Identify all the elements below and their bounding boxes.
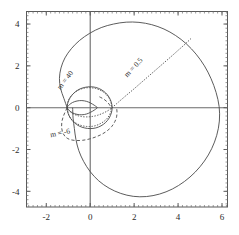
label-m-05: m = 0.5 (122, 56, 145, 79)
polar-curve-figure: -20246 420-2-4 m = 40m = 0.5m = -6 (0, 0, 239, 235)
x-tick-label: -2 (43, 212, 51, 222)
curve-series-group (59, 22, 219, 197)
x-tick-labels: -20246 (43, 212, 225, 222)
y-tick-label: 4 (15, 19, 20, 29)
curve-outer-solid-curve (59, 22, 219, 197)
axes-group (27, 12, 228, 208)
x-tick-label: 4 (176, 212, 181, 222)
y-tick-label: -4 (12, 187, 20, 197)
y-tick-labels: 420-2-4 (12, 19, 20, 196)
ticks-group (27, 12, 228, 208)
y-tick-label: 2 (15, 61, 20, 71)
x-tick-label: 2 (132, 212, 137, 222)
y-tick-label: 0 (15, 103, 20, 113)
plot-frame-border (27, 12, 228, 208)
y-tick-label: -2 (12, 145, 20, 155)
plot-canvas: -20246 420-2-4 m = 40m = 0.5m = -6 (0, 0, 239, 235)
x-tick-label: 6 (220, 212, 225, 222)
label-m-neg6: m = -6 (49, 126, 71, 139)
x-tick-label: 0 (88, 212, 93, 222)
label-m-40: m = 40 (55, 69, 75, 92)
